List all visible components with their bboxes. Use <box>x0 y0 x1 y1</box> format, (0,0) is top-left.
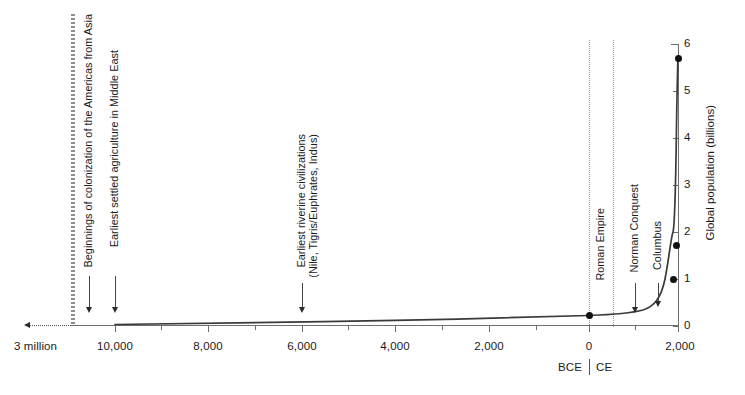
annotation-agriculture-arrow-shaft <box>115 276 116 309</box>
annotation-riverine-arrow-shaft <box>302 283 303 309</box>
annotation-columbus-arrow-head <box>655 301 661 307</box>
annotation-colonization-arrow-head <box>86 307 92 313</box>
annotation-colonization-arrow-shaft <box>89 276 90 309</box>
annotation-columbus-label: Columbus <box>652 221 664 270</box>
annotation-norman-conquest-arrow-shaft <box>635 283 636 309</box>
data-point-5-8-billion <box>675 55 682 62</box>
annotation-norman-conquest-label: Norman Conquest <box>629 184 641 272</box>
data-point-1-billion <box>670 276 677 283</box>
data-point-1-7-billion <box>673 242 680 249</box>
annotation-norman-conquest-arrow-head <box>632 307 638 313</box>
annotation-agriculture-label: Earliest settled agriculture in Middle E… <box>109 50 121 247</box>
annotation-colonization-label: Beginnings of colonization of the Americ… <box>83 14 95 267</box>
annotation-roman-empire-label: Roman Empire <box>595 208 607 281</box>
data-point-year-0 <box>586 312 593 319</box>
annotation-columbus-arrow-shaft <box>658 283 659 303</box>
annotation-riverine-label-line1: Earliest riverine civilizations <box>296 134 308 268</box>
annotation-riverine-arrow-head <box>299 307 305 313</box>
annotation-agriculture-arrow-head <box>112 307 118 313</box>
population-growth-chart: 3 million 10,000 8,000 6,000 4,000 2,000… <box>0 0 745 395</box>
annotation-riverine-label-line2: (Nile, Tigris/Euphrates, Indus) <box>308 134 320 278</box>
